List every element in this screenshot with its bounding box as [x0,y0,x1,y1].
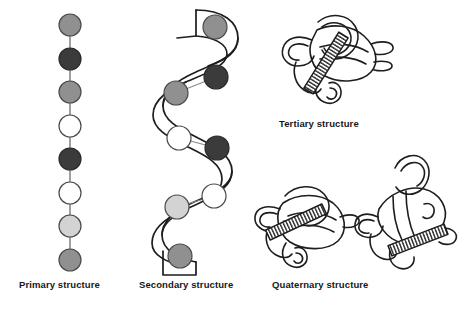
tertiary-lobe-left-inner [289,44,308,60]
secondary-residue-2 [204,65,228,89]
quaternary-right-strand-2 [406,191,415,238]
secondary-residue-8 [168,244,192,268]
quaternary-subunit-left [255,187,359,268]
quaternary-right-inner-notch [423,203,434,218]
caption-quaternary-structure: Quaternary structure [272,279,369,290]
primary-residue-5 [59,148,81,170]
quaternary-left-hook-inner [294,253,303,263]
caption-primary-structure: Primary structure [19,279,100,290]
quaternary-left-hook [283,243,308,267]
primary-residue-4 [59,115,81,137]
primary-residue-2 [59,48,81,70]
primary-residue-6 [59,182,81,204]
primary-structure-group [59,14,81,271]
primary-residue-1 [59,14,81,36]
quaternary-right-loop-upper-inner [401,163,424,186]
tertiary-tail-right-2 [374,61,392,71]
caption-secondary-structure: Secondary structure [139,279,233,290]
tertiary-lobe-left [282,37,314,66]
helix-top-terminus [177,10,196,38]
secondary-residue-1 [203,15,227,39]
quaternary-right-lobe-inner [359,220,374,234]
quaternary-right-strand-1 [393,196,402,240]
quaternary-left-lobe-inner [260,213,277,228]
protein-structure-figure: Primary structure Secondary structure Te… [0,0,466,309]
tertiary-helix-barrel [304,32,348,94]
quaternary-structure-group [255,156,456,269]
quaternary-subunit-right [355,156,456,269]
secondary-structure-group [152,10,238,275]
quaternary-left-helix-coil [266,204,327,240]
tertiary-loop-lower-inner [327,88,337,99]
tertiary-helix-coil [304,32,348,94]
secondary-residue-6 [202,184,226,208]
primary-residue-8 [59,249,81,271]
secondary-residue-5 [205,136,229,160]
diagram-canvas [0,0,466,309]
secondary-residues [164,15,229,268]
tertiary-structure-group [282,16,393,104]
secondary-residue-3 [164,81,188,105]
secondary-residue-4 [167,126,191,150]
primary-residue-3 [59,81,81,103]
caption-tertiary-structure: Tertiary structure [279,118,359,129]
secondary-residue-7 [165,195,189,219]
primary-residue-7 [59,215,81,237]
